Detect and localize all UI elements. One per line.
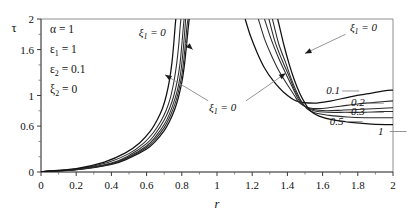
- y-tick-label: 1.6: [20, 44, 34, 56]
- curve-left-branch: [41, 19, 186, 172]
- x-tick-label: 2: [390, 179, 396, 191]
- curves-group: [41, 19, 393, 172]
- x-tick-label: 1.6: [316, 179, 330, 191]
- xi-annotation-label: ξ1 = 0: [139, 26, 167, 41]
- x-tick-label: 0.8: [175, 179, 189, 191]
- curve-left-branch: [41, 19, 184, 172]
- parameter-item: ξ2 = 0: [50, 83, 77, 98]
- xi-annotation-label: ξ1 = 0: [209, 101, 237, 116]
- x-tick-label: 0.2: [69, 179, 83, 191]
- curve-label: 1: [378, 125, 384, 137]
- parameter-item: ε1 = 1: [50, 43, 77, 58]
- x-tick-label: 0.4: [105, 179, 119, 191]
- x-tick-label: 1: [214, 179, 220, 191]
- chart-svg: 00.20.40.60.811.21.41.61.8200.611.62τrα …: [0, 0, 410, 217]
- curve-left-branch: [41, 19, 181, 172]
- y-axis-label: τ: [11, 21, 16, 35]
- x-tick-label: 1.4: [281, 179, 295, 191]
- y-axis-ticks: 00.611.62: [20, 13, 41, 178]
- curve-right-branch: [269, 19, 393, 112]
- curve-label: 0.3: [351, 105, 365, 117]
- y-tick-label: 0: [29, 166, 35, 178]
- x-tick-label: 0.6: [140, 179, 154, 191]
- curve-label: 0.5: [330, 115, 344, 127]
- x-axis-label: r: [215, 197, 220, 211]
- x-tick-label: 1.8: [351, 179, 365, 191]
- y-tick-label: 0.6: [20, 120, 34, 132]
- chart-figure: 00.20.40.60.811.21.41.61.8200.611.62τrα …: [0, 0, 410, 217]
- curve-label: 0.1: [326, 84, 340, 96]
- x-axis-ticks: 00.20.40.60.811.21.41.61.82: [38, 172, 396, 191]
- xi-annotation-label: ξ1 = 0: [350, 21, 378, 36]
- parameter-item: α = 1: [50, 23, 74, 35]
- x-tick-label: 0: [38, 179, 44, 191]
- y-tick-label: 2: [29, 13, 35, 25]
- parameter-item: ε2 = 0.1: [50, 63, 86, 78]
- x-tick-label: 1.2: [245, 179, 259, 191]
- curve-left-branch: [41, 19, 176, 172]
- parameter-annotations: α = 1ε1 = 1ε2 = 0.1ξ2 = 0: [50, 23, 86, 98]
- y-tick-label: 1: [29, 90, 35, 102]
